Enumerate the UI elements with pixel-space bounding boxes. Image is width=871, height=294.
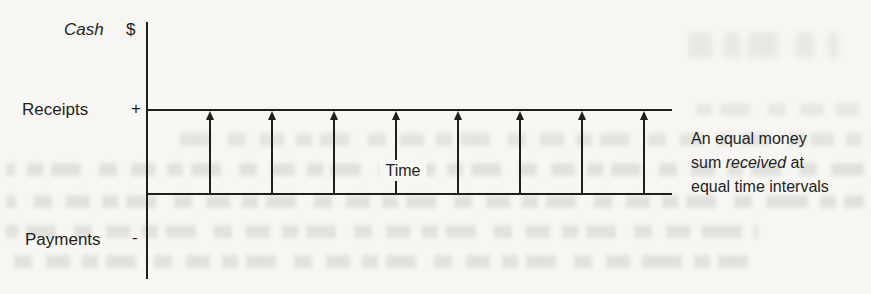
receipts-level-line: [147, 109, 672, 111]
time-axis-line: [147, 193, 672, 195]
cash-axis-label: Cash: [64, 21, 104, 39]
arrow-shaft: [643, 120, 645, 193]
cash-flow-diagram: Cash $ Receipts + Payments - Time An equ…: [0, 0, 871, 294]
bleedthrough-texture: [6, 255, 758, 268]
arrow-shaft: [519, 120, 521, 193]
arrow-up-icon: [392, 111, 400, 120]
arrow-up-icon: [330, 111, 338, 120]
arrow-up-icon: [206, 111, 214, 120]
bleedthrough-texture: [688, 32, 838, 58]
arrow-shaft: [395, 120, 397, 193]
receipt-arrow: [639, 111, 649, 193]
caption-line-3: equal time intervals: [691, 175, 871, 199]
dollar-sign-label: $: [126, 21, 135, 39]
time-axis-label: Time: [380, 160, 427, 181]
figure-caption: An equal money sum received at equal tim…: [691, 127, 871, 199]
cash-axis-line: [146, 22, 148, 279]
receipt-arrow: [453, 111, 463, 193]
receipt-arrow: [205, 111, 215, 193]
plus-sign-label: +: [131, 100, 141, 118]
arrow-up-icon: [578, 111, 586, 120]
receipt-arrow: [577, 111, 587, 193]
caption-line-2-post: at: [786, 154, 804, 171]
caption-line-2: sum received at: [691, 151, 871, 175]
bleedthrough-texture: [6, 225, 758, 238]
caption-line-1: An equal money: [691, 127, 871, 151]
arrow-shaft: [457, 120, 459, 193]
caption-line-2-italic-word: received: [726, 154, 786, 171]
arrow-up-icon: [268, 111, 276, 120]
arrow-up-icon: [454, 111, 462, 120]
receipt-arrow: [267, 111, 277, 193]
arrow-shaft: [333, 120, 335, 193]
receipt-arrow: [515, 111, 525, 193]
receipts-label: Receipts: [22, 101, 88, 119]
receipt-arrow: [329, 111, 339, 193]
arrow-up-icon: [640, 111, 648, 120]
arrow-shaft: [581, 120, 583, 193]
minus-sign-label: -: [132, 229, 138, 247]
arrow-up-icon: [516, 111, 524, 120]
arrow-shaft: [209, 120, 211, 193]
caption-line-2-pre: sum: [691, 154, 726, 171]
bleedthrough-texture: [690, 103, 865, 116]
arrow-shaft: [271, 120, 273, 193]
payments-label: Payments: [25, 231, 101, 249]
